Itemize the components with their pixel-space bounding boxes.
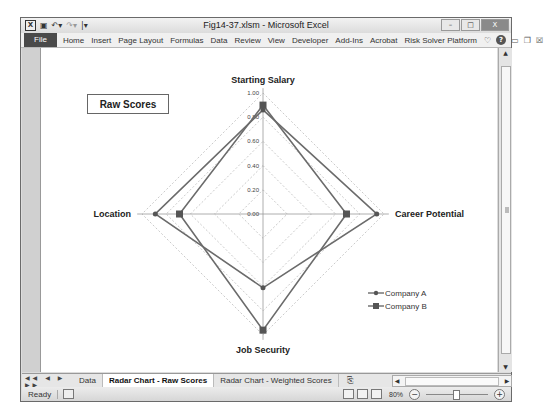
category-label: Job Security	[236, 345, 290, 355]
row-header-strip	[22, 48, 41, 372]
diamond-marker-icon	[374, 212, 379, 217]
scroll-right-arrow-icon[interactable]: ▶	[503, 376, 511, 386]
tab-developer[interactable]: Developer	[292, 36, 328, 45]
sheet-tab-data[interactable]: Data	[73, 374, 103, 387]
status-bar: Ready 80% − +	[22, 387, 511, 401]
horizontal-scroll-thumb[interactable]	[405, 377, 499, 386]
window-title: Fig14-37.xlsm - Microsoft Excel	[21, 20, 511, 30]
close-workbook-icon[interactable]: ☒	[536, 36, 543, 45]
zoom-out-button[interactable]: −	[409, 389, 420, 400]
excel-window: X ▣ ↶▾ ↷▾ |▾ Fig14-37.xlsm - Microsoft E…	[20, 17, 512, 402]
sheet-tab-radar-weighted-scores[interactable]: Radar Chart - Weighted Scores	[214, 374, 338, 387]
series-line-company-a	[155, 110, 376, 288]
status-text: Ready	[22, 390, 58, 399]
tab-risk-solver-platform[interactable]: Risk Solver Platform	[405, 36, 477, 45]
legend-diamond-icon	[374, 291, 378, 295]
tick-label: 0.60	[247, 138, 259, 144]
chart-axes	[137, 88, 389, 340]
tab-page-layout[interactable]: Page Layout	[118, 36, 163, 45]
square-marker-icon	[260, 102, 267, 109]
square-marker-icon	[176, 211, 183, 218]
chart-legend: Company ACompany B	[368, 289, 427, 311]
ribbon-tabs: File Home Insert Page Layout Formulas Da…	[21, 33, 511, 48]
radial-tick-labels: 0.000.200.400.600.801.00	[247, 90, 259, 217]
tab-insert[interactable]: Insert	[91, 36, 111, 45]
category-labels: Starting SalaryCareer PotentialJob Secur…	[94, 75, 465, 355]
radar-chart[interactable]: 0.000.200.400.600.801.00 Starting Salary…	[41, 48, 497, 372]
vertical-scroll-thumb[interactable]	[501, 66, 511, 354]
vertical-scrollbar[interactable]: ▲ ▼	[498, 48, 512, 372]
scroll-up-arrow-icon[interactable]: ▲	[499, 48, 512, 58]
square-marker-icon	[260, 327, 267, 334]
maximize-button[interactable]: □	[461, 19, 480, 31]
close-button[interactable]: X	[481, 19, 509, 31]
minimize-button[interactable]: –	[441, 19, 460, 31]
sheet-nav-arrows-icon[interactable]: ◀◀ ◀ ▶ ▶▶	[25, 374, 73, 388]
tab-home[interactable]: Home	[63, 36, 84, 45]
tick-label: 0.00	[247, 211, 259, 217]
tab-acrobat[interactable]: Acrobat	[370, 36, 398, 45]
tab-data[interactable]: Data	[211, 36, 228, 45]
scroll-left-arrow-icon[interactable]: ◀	[393, 376, 401, 386]
insert-sheet-icon[interactable]: ⎘	[339, 376, 361, 386]
zoom-level[interactable]: 80%	[389, 391, 403, 398]
worksheet-area[interactable]: Raw Scores 0.000.200.400.600.801.00 Star…	[41, 48, 497, 372]
sheet-tabs-bar: ◀◀ ◀ ▶ ▶▶ Data Radar Chart - Raw Scores …	[22, 373, 511, 387]
page-break-view-icon[interactable]	[371, 389, 382, 399]
tick-label: 1.00	[247, 90, 259, 96]
restore-workbook-icon[interactable]: ❐	[524, 36, 531, 45]
window-controls: – □ X	[441, 19, 509, 31]
minimize-ribbon-icon[interactable]: ▭	[511, 36, 519, 45]
category-label: Location	[94, 209, 132, 219]
record-macro-icon[interactable]	[63, 389, 74, 399]
tab-file[interactable]: File	[24, 33, 57, 47]
tab-formulas[interactable]: Formulas	[170, 36, 203, 45]
normal-view-icon[interactable]	[343, 389, 354, 399]
category-label: Starting Salary	[231, 75, 295, 85]
square-marker-icon	[343, 211, 350, 218]
tick-label: 0.40	[247, 163, 259, 169]
heart-icon[interactable]: ♡	[484, 36, 491, 45]
scroll-grip-icon	[505, 207, 509, 213]
sheet-tab-radar-raw-scores[interactable]: Radar Chart - Raw Scores	[103, 374, 214, 387]
zoom-in-button[interactable]: +	[494, 389, 505, 400]
tab-review[interactable]: Review	[234, 36, 260, 45]
zoom-slider[interactable]	[426, 390, 488, 399]
help-icon[interactable]: ?	[496, 35, 506, 45]
ribbon-right-icons: ♡ ? ▭ ❐ ☒	[484, 35, 547, 45]
legend-label: Company B	[385, 302, 427, 311]
legend-label: Company A	[385, 289, 427, 298]
diamond-marker-icon	[261, 285, 266, 290]
chart-series	[153, 102, 379, 334]
horizontal-scrollbar[interactable]: ◀ ▶	[392, 375, 512, 387]
view-controls: 80% − +	[343, 389, 511, 400]
legend-square-icon	[373, 303, 379, 309]
tab-add-ins[interactable]: Add-Ins	[335, 36, 363, 45]
zoom-slider-knob[interactable]	[453, 390, 460, 400]
diamond-marker-icon	[153, 212, 158, 217]
tick-label: 0.20	[247, 187, 259, 193]
title-bar: X ▣ ↶▾ ↷▾ |▾ Fig14-37.xlsm - Microsoft E…	[21, 18, 511, 33]
category-label: Career Potential	[395, 209, 464, 219]
tab-view[interactable]: View	[268, 36, 285, 45]
scroll-down-arrow-icon[interactable]: ▼	[499, 362, 512, 372]
page-layout-view-icon[interactable]	[357, 389, 368, 399]
